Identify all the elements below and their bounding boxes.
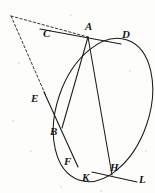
point-label-A: A — [85, 21, 92, 32]
point-label-B: B — [50, 126, 57, 137]
geometry-figure: A C D E B F K H L — [0, 0, 155, 193]
paper-speckle — [30, 150, 32, 152]
paper-speckle — [145, 150, 147, 152]
point-label-H: H — [110, 162, 119, 173]
paper-speckle — [12, 120, 14, 122]
point-label-C: C — [43, 28, 50, 39]
dashed-line-to-secant-point — [11, 16, 46, 96]
paper-speckle — [70, 14, 72, 16]
paper-speckle — [100, 190, 102, 192]
paper-speckle — [60, 186, 62, 188]
ellipse-shape — [35, 25, 155, 193]
chord-line-AB — [62, 37, 88, 128]
paper-speckle — [18, 62, 20, 64]
point-label-L: L — [139, 174, 146, 185]
point-label-D: D — [122, 29, 130, 40]
chord-line-AH — [88, 37, 112, 175]
paper-speckle — [129, 70, 131, 72]
geometry-canvas — [0, 0, 155, 193]
point-label-E: E — [31, 93, 38, 104]
point-label-K: K — [82, 172, 89, 183]
point-label-F: F — [64, 156, 71, 167]
tangent-line-CD — [40, 29, 121, 44]
